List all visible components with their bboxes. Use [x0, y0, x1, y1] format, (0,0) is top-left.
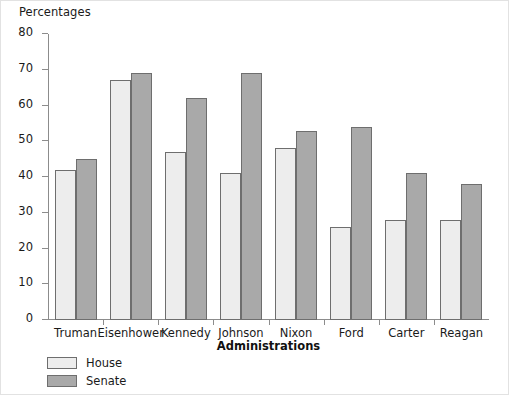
bar-house[interactable] [55, 170, 76, 320]
bar-group: Nixon [269, 34, 324, 320]
bar-house[interactable] [165, 152, 186, 320]
legend-label: House [86, 356, 122, 370]
y-axis-tick-label: 0 [26, 311, 33, 325]
bar-house[interactable] [220, 173, 241, 320]
bar-group: Reagan [434, 34, 489, 320]
x-axis-tick [434, 320, 435, 325]
legend-item[interactable]: House [47, 355, 126, 370]
bar-senate[interactable] [406, 173, 427, 320]
y-axis-tick-label: 20 [18, 240, 33, 254]
y-axis-tick-label: 60 [18, 97, 33, 111]
x-axis-category-label: Ford [339, 326, 364, 340]
legend-swatch-house [47, 357, 77, 369]
y-axis-tick-label: 80 [18, 25, 33, 39]
y-axis-title: Percentages [19, 5, 91, 19]
x-axis-category-label: Kennedy [161, 326, 211, 340]
x-axis-tick [269, 320, 270, 325]
x-axis-category-label: Nixon [280, 326, 313, 340]
plot-area: 01020304050607080 TrumanEisenhowerKenned… [48, 34, 489, 320]
y-axis-tick-label: 70 [18, 61, 33, 75]
bar-group: Ford [324, 34, 379, 320]
y-axis-tick-label: 50 [18, 132, 33, 146]
bar-house[interactable] [275, 148, 296, 320]
x-axis-category-label: Carter [388, 326, 424, 340]
bar-chart-figure: Percentages 01020304050607080 TrumanEise… [0, 0, 509, 395]
bar-group: Truman [48, 34, 103, 320]
legend-label: Senate [86, 374, 126, 388]
bar-senate[interactable] [186, 98, 207, 320]
bar-house[interactable] [440, 220, 461, 320]
bar-group: Eisenhower [103, 34, 158, 320]
bar-senate[interactable] [296, 131, 317, 320]
legend-swatch-senate [47, 375, 77, 387]
bar-senate[interactable] [76, 159, 97, 320]
bar-group: Johnson [213, 34, 268, 320]
bar-group: Carter [379, 34, 434, 320]
legend-item[interactable]: Senate [47, 373, 126, 388]
x-axis-tick [379, 320, 380, 325]
bar-senate[interactable] [241, 73, 262, 320]
bar-house[interactable] [330, 227, 351, 320]
y-axis-tick-label: 30 [18, 204, 33, 218]
x-axis-category-label: Truman [54, 326, 97, 340]
bar-group: Kennedy [158, 34, 213, 320]
x-axis-category-label: Eisenhower [98, 326, 164, 340]
y-axis-tick-label: 40 [18, 168, 33, 182]
x-axis-tick [158, 320, 159, 325]
x-axis-title: Administrations [48, 339, 489, 353]
bar-house[interactable] [385, 220, 406, 320]
x-axis-tick [324, 320, 325, 325]
y-axis-tick-label: 10 [18, 275, 33, 289]
x-axis-category-label: Johnson [218, 326, 263, 340]
bar-house[interactable] [110, 80, 131, 320]
chart-legend: HouseSenate [47, 355, 126, 391]
bar-senate[interactable] [351, 127, 372, 320]
bar-senate[interactable] [131, 73, 152, 320]
x-axis-tick [103, 320, 104, 325]
bar-senate[interactable] [461, 184, 482, 320]
x-axis-category-label: Reagan [440, 326, 483, 340]
x-axis-tick [213, 320, 214, 325]
